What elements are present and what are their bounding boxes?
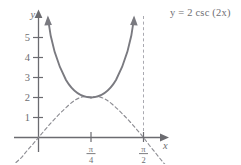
csc-function-graph: 1 2 3 4 5 y x π 4 π 2 [0,0,241,164]
x-tick-label-pi-over-2: π 2 [139,144,148,165]
cosecant-right-arrowhead [130,16,138,26]
figure-container: 1 2 3 4 5 y x π 4 π 2 y = 2 csc (2x) [0,0,241,164]
cosecant-left-arrowhead [44,16,52,26]
y-tick-labels: 1 2 3 4 5 [25,32,31,123]
y-axis-label: y [30,9,36,20]
cosecant-curve-left-branch [48,19,91,98]
y-tick-label-4: 4 [25,52,31,63]
pi-over-4-denominator: 4 [89,155,94,165]
x-axis-label: x [162,140,168,151]
equation-annotation: y = 2 csc (2x) [170,7,231,18]
cosecant-curve-right-branch [91,19,134,98]
x-tick-label-pi-over-4: π 4 [87,144,96,165]
pi-over-2-denominator: 2 [141,155,145,165]
pi-over-4-numerator: π [89,144,94,154]
y-axis-arrowhead [35,10,43,19]
y-tick-label-3: 3 [25,72,30,83]
y-tick-label-2: 2 [25,92,30,103]
y-tick-label-1: 1 [25,112,30,123]
pi-over-2-numerator: π [141,144,146,154]
y-tick-label-5: 5 [25,32,30,43]
